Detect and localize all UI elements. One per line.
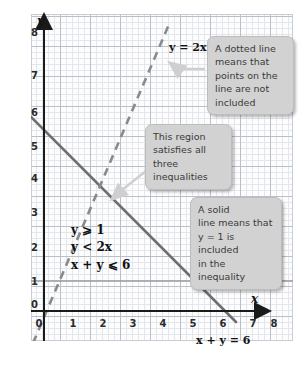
x-tick-2: 2	[96, 319, 110, 329]
y-tick-0: 0	[24, 300, 38, 310]
pointer-dotted-callout	[170, 63, 205, 69]
x-axis-label: x	[251, 292, 258, 306]
y-tick-8: 8	[24, 28, 38, 38]
x-tick-8: 8	[267, 319, 281, 329]
pointer-region-callout	[112, 171, 146, 199]
y-tick-4: 4	[24, 174, 38, 184]
label-x-plus-y-equals-6: x + y = 6	[196, 334, 250, 349]
y-axis-label: y	[37, 14, 44, 28]
y-tick-2: 2	[24, 243, 38, 253]
x-tick-4: 4	[156, 319, 170, 329]
inequalities-list: y ⩾ 1 y < 2x x + y ⩽ 6	[71, 222, 130, 274]
label-y-equals-2x: y = 2x	[169, 41, 206, 56]
x-tick-3: 3	[126, 319, 140, 329]
x-tick-5: 5	[186, 319, 200, 329]
callout-solid-line: A solid line means that y = 1 is include…	[190, 197, 282, 290]
callout-region: This region satisfies all three inequali…	[145, 124, 232, 190]
y-tick-1: 1	[24, 277, 38, 287]
y-tick-6: 6	[24, 108, 38, 118]
x-tick-7: 7	[246, 319, 260, 329]
y-tick-3: 3	[24, 208, 38, 218]
callout-dotted-line: A dotted line means that points on the l…	[207, 36, 294, 115]
y-tick-5: 5	[24, 142, 38, 152]
x-tick-6: 6	[216, 319, 230, 329]
x-tick-0: 0	[32, 319, 46, 329]
figure-root: 8 7 6 5 4 3 2 1 0 0 1 2 3 4 5 6 7 8 y x …	[0, 0, 301, 365]
y-tick-7: 7	[24, 71, 38, 81]
x-tick-1: 1	[66, 319, 80, 329]
